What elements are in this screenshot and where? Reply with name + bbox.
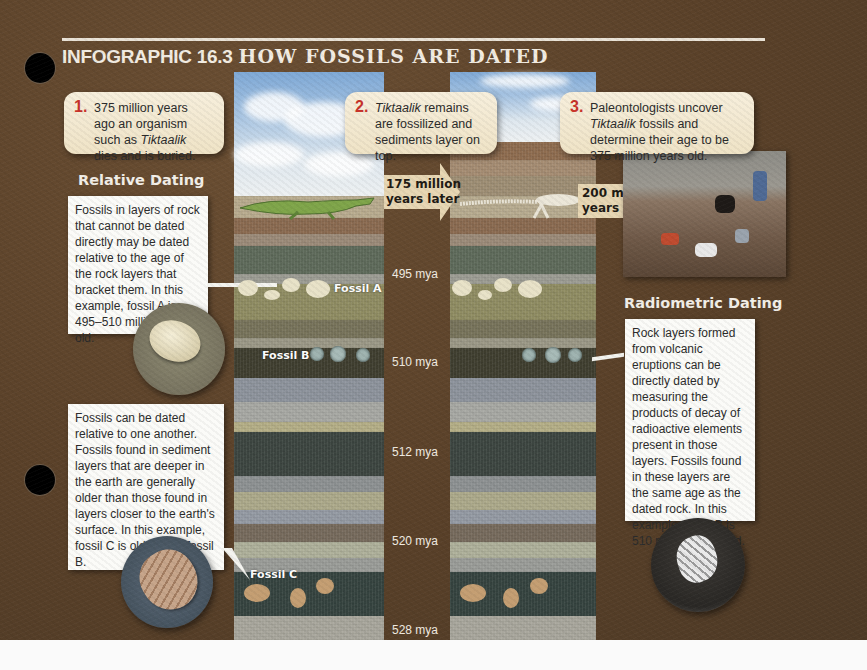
time-arrow-1: 175 million years later (384, 163, 460, 221)
step-3-number: 3. (570, 99, 583, 115)
arrow-1-line2: years later (386, 192, 442, 207)
age-marker-512: 512 mya (380, 445, 450, 459)
step-2-number: 2. (355, 99, 368, 115)
fossil-b-label: Fossil B (262, 349, 309, 362)
age-marker-528: 528 mya (380, 623, 450, 637)
page-title: INFOGRAPHIC 16.3HOW FOSSILS ARE DATED (62, 45, 548, 68)
pointer-fossil-c (222, 548, 252, 582)
arrow-1-line1: 175 million (386, 177, 442, 192)
radiometric-dating-note: Rock layers formed from volcanic eruptio… (625, 319, 755, 521)
binder-hole-top (25, 53, 55, 83)
radiometric-dating-heading: Radiometric Dating (624, 295, 782, 311)
tiktaalik-skeleton-icon (458, 188, 588, 222)
relative-dating-heading: Relative Dating (78, 172, 204, 188)
fossil-b-closeup (651, 518, 745, 612)
infographic-title: HOW FOSSILS ARE DATED (238, 45, 548, 67)
step-3-callout: 3. Paleontologists uncover Tiktaalik fos… (560, 92, 754, 154)
excavation-photo (623, 151, 786, 277)
fossil-c-closeup (121, 536, 213, 628)
fossil-a-closeup (133, 303, 225, 395)
pointer-fossil-b (592, 353, 624, 361)
binder-hole-bottom (25, 465, 55, 495)
infographic-page: INFOGRAPHIC 16.3HOW FOSSILS ARE DATED (0, 0, 867, 640)
page-bottom-margin (0, 640, 867, 670)
fossil-a-label: Fossil A (334, 282, 382, 295)
age-marker-495: 495 mya (380, 267, 450, 281)
age-marker-510: 510 mya (380, 355, 450, 369)
step-2-callout: 2. Tiktaalik remains are fossilized and … (345, 92, 497, 154)
step-1-number: 1. (74, 99, 87, 115)
header-rule (62, 38, 765, 41)
age-marker-520: 520 mya (380, 534, 450, 548)
fossil-c-label: Fossil C (250, 568, 297, 581)
tiktaalik-icon (238, 192, 378, 220)
step-1-callout: 1. 375 million years ago an organism suc… (64, 92, 224, 154)
infographic-number: INFOGRAPHIC 16.3 (62, 46, 232, 67)
